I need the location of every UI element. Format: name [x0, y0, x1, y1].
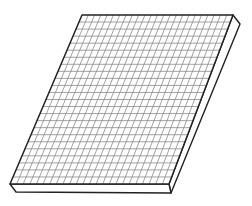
board-bottom-edge	[10, 184, 171, 193]
illustration-canvas	[0, 0, 252, 206]
grid-board-illustration	[0, 0, 252, 206]
